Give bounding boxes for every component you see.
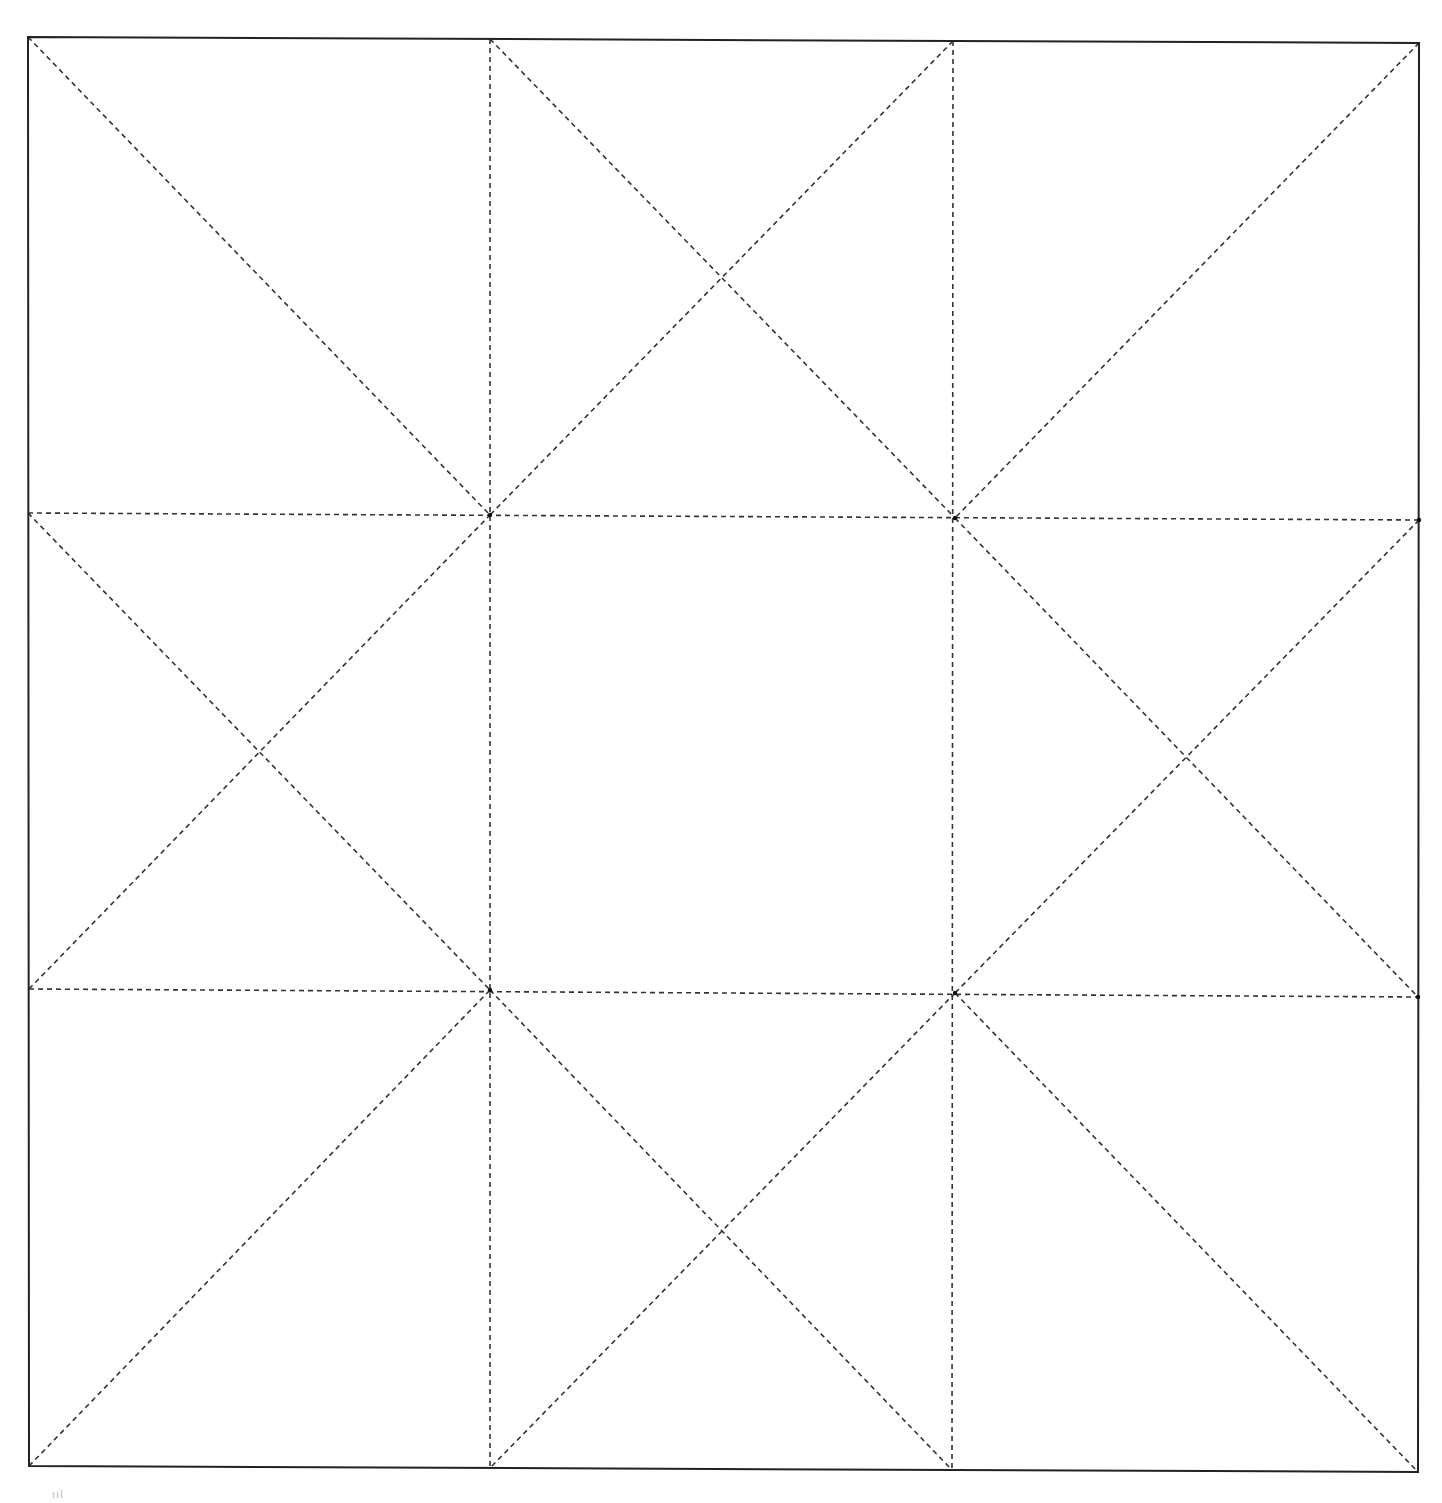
vertical-line-2 — [952, 41, 953, 1470]
diagonal-top-left — [28, 37, 490, 515]
vertex-dot — [953, 516, 957, 520]
grid-vertices — [488, 513, 1421, 999]
dashed-lines — [28, 37, 1419, 1472]
diagonal-top-right — [955, 43, 1419, 518]
vertex-dot — [488, 988, 492, 992]
diagonal-top-center-b — [490, 41, 953, 515]
vertex-dot — [1417, 518, 1421, 522]
vertex-dot — [1416, 995, 1420, 999]
horizontal-line-2 — [29, 989, 1418, 997]
diagonal-bottom-left — [29, 990, 490, 1466]
vertex-dot — [488, 513, 492, 517]
diagonal-bottom-center-a — [490, 990, 952, 1470]
diagonal-bottom-right — [955, 993, 1418, 1472]
vertex-dot — [953, 991, 957, 995]
corner-mark: ııl — [52, 1488, 64, 1501]
folding-diagram — [0, 0, 1442, 1503]
diagonal-mid-left-a — [28, 513, 490, 990]
horizontal-line-1 — [28, 513, 1419, 520]
diagonal-top-center-a — [490, 39, 955, 518]
diagonal-mid-right-a — [955, 518, 1418, 997]
